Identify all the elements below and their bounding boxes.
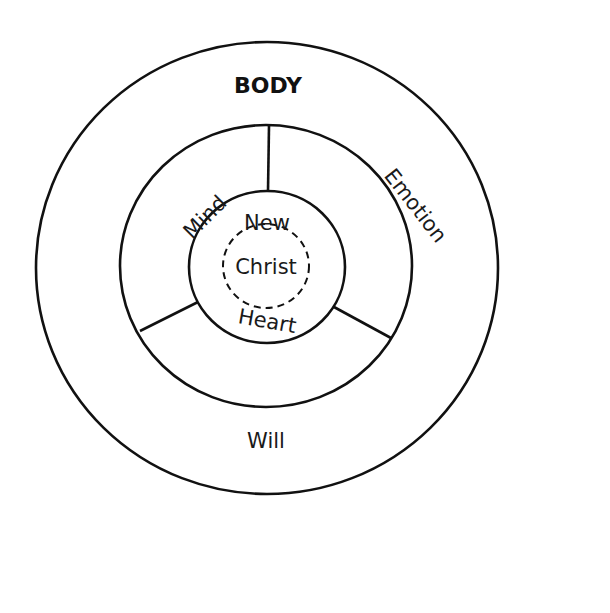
- divider-mind-will: [140, 302, 198, 331]
- heart-label: Heart: [236, 304, 298, 338]
- divider-emotion-will: [334, 307, 391, 338]
- body-label: BODY: [234, 73, 303, 98]
- mind-label: Mind: [179, 191, 232, 244]
- body-soul-spirit-diagram: BODY Mind Emotion Will New Christ Heart: [0, 0, 610, 613]
- emotion-label: Emotion: [379, 164, 451, 247]
- christ-label: Christ: [235, 255, 297, 279]
- will-label: Will: [247, 429, 285, 453]
- new-label: New: [244, 211, 290, 235]
- divider-mind-emotion: [268, 126, 269, 191]
